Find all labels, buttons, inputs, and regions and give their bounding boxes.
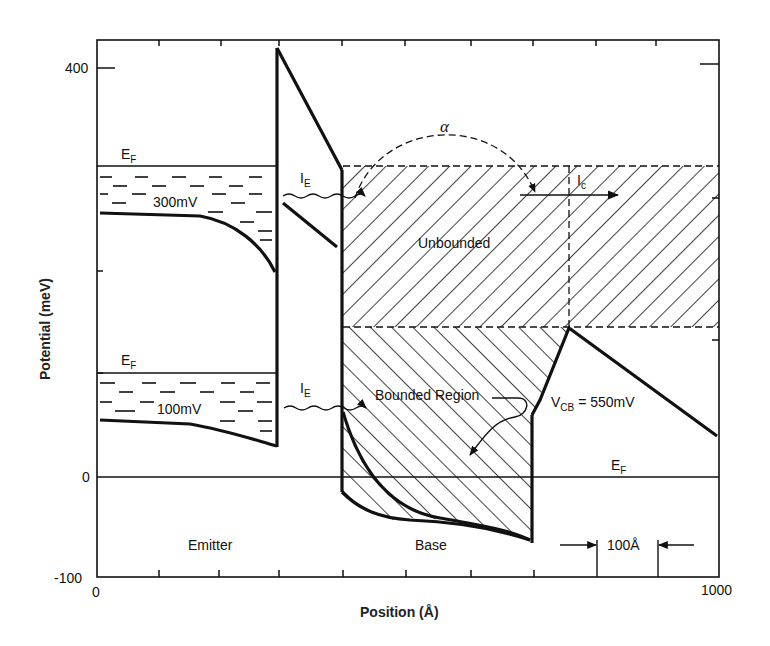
svg-text:VCB = 550mV: VCB = 550mV — [551, 394, 635, 413]
svg-text:EF: EF — [611, 457, 626, 476]
bounded-region — [343, 327, 569, 543]
width-marker-label: 100Å — [607, 537, 640, 553]
ef-label-base: EF — [611, 457, 626, 476]
base-label: Base — [415, 537, 447, 553]
x-tick-0: 0 — [92, 584, 100, 600]
bias-300mV-label: 300mV — [153, 194, 198, 210]
x-tick-1000: 1000 — [701, 582, 732, 598]
svg-text:EF: EF — [121, 352, 136, 371]
alpha-label: α — [440, 117, 450, 136]
emitter-label: Emitter — [188, 537, 233, 553]
svg-text:IE: IE — [300, 380, 311, 399]
y-tick-400: 400 — [65, 60, 89, 76]
y-tick-0: 0 — [82, 469, 90, 485]
x-axis-label: Position (Å) — [360, 604, 439, 620]
band-diagram: 400 0 -100 0 1000 Position (Å) Potential… — [0, 0, 770, 646]
ef-label-mid: EF — [121, 352, 136, 371]
unbounded-label: Unbounded — [418, 235, 490, 251]
y-tick-minus100: -100 — [54, 570, 82, 586]
ef-label-top: EF — [121, 146, 136, 165]
bias-100mV-label: 100mV — [157, 401, 202, 417]
svg-text:IE: IE — [300, 170, 311, 189]
bounded-region-label: Bounded Region — [375, 387, 479, 403]
svg-text:EF: EF — [121, 146, 136, 165]
vcb-label: VCB = 550mV — [551, 394, 635, 413]
unbounded-region — [343, 166, 719, 327]
y-axis-label: Potential (meV) — [37, 278, 53, 380]
